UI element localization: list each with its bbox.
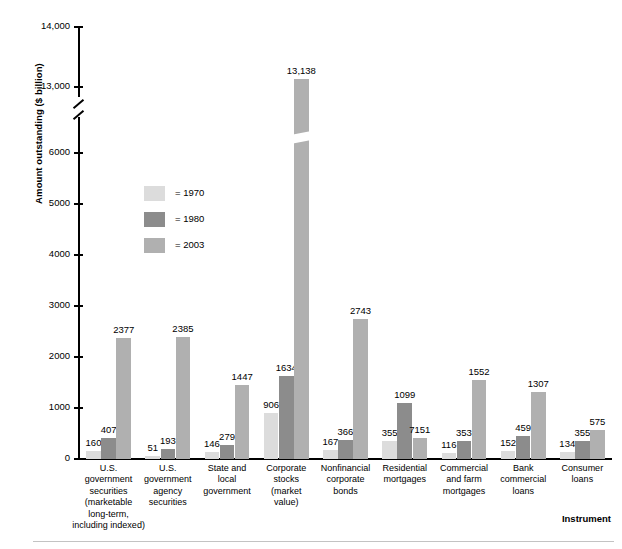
bar-1980-5 — [338, 440, 353, 459]
bar-value-label: 7151 — [404, 424, 437, 435]
bar-1980-8 — [516, 436, 531, 459]
bar-1970-5 — [323, 450, 338, 459]
bar-1970-7 — [442, 453, 457, 459]
bar-group: 511932385 — [138, 0, 197, 459]
category-label-line: value) — [243, 497, 330, 508]
bar-2003-2 — [176, 337, 191, 459]
legend-label-1980: = 1980 — [175, 213, 204, 224]
bar-value-label: 1307 — [522, 378, 555, 389]
y-tick-label: 5000 — [22, 197, 70, 208]
bar-1970-2 — [145, 456, 160, 459]
y-tick-label-wrap: 4000 — [20, 248, 70, 260]
bar-group: 1673662743 — [316, 0, 375, 459]
bar-1970-6 — [382, 441, 397, 459]
y-tick-label-wrap: 13,000 — [20, 80, 70, 92]
y-tick-label-wrap: 6000 — [20, 146, 70, 158]
bar-group: 1604072377 — [79, 0, 138, 459]
y-tick-label: 3000 — [22, 299, 70, 310]
bar-1970-3 — [205, 452, 220, 459]
category-label-line: including indexed) — [57, 520, 160, 531]
bar-value-label: 2743 — [344, 305, 377, 316]
bar-1970-1 — [86, 451, 101, 459]
y-tick-label-wrap: 1000 — [20, 401, 70, 413]
bar-1980-7 — [457, 441, 472, 459]
bar-2003-4 — [294, 79, 309, 459]
legend-label-2003: = 2003 — [175, 239, 204, 250]
footer-divider — [33, 541, 614, 542]
category-label-line: bonds — [302, 486, 389, 497]
bar-value-label: 13,138 — [285, 65, 318, 76]
y-tick-label: 13,000 — [22, 80, 70, 91]
y-tick-label: 6000 — [22, 146, 70, 157]
bar-group: 1163531552 — [434, 0, 493, 459]
bar-group: 134355575 — [553, 0, 612, 459]
y-tick-label: 2000 — [22, 350, 70, 361]
x-axis-title: Instrument — [562, 513, 611, 524]
x-axis-category-labels: U.S.governmentsecurities(marketablelong-… — [79, 463, 612, 543]
category-label-line: loans — [539, 474, 622, 485]
legend-swatch-1980 — [144, 212, 165, 227]
bar-value-label: 1447 — [226, 371, 259, 382]
bar-1970-9 — [560, 452, 575, 459]
bar-chart-figure: Amount outstanding ($ billion) 14,00013,… — [0, 0, 622, 549]
bar-2003-9 — [590, 430, 605, 459]
bar-value-label: 1099 — [388, 389, 421, 400]
category-label-line: loans — [480, 486, 567, 497]
y-tick-label-wrap: 5000 — [20, 197, 70, 209]
bar-1970-4 — [264, 413, 279, 459]
category-label-9: Consumerloans — [539, 463, 622, 486]
bar-value-label: 1552 — [463, 366, 496, 377]
bar-group: 1524591307 — [494, 0, 553, 459]
bar-group: 1462791447 — [197, 0, 256, 459]
bar-group: 906163413,138 — [257, 0, 316, 459]
bar-value-label: 575 — [581, 416, 614, 427]
bar-value-label: 2385 — [167, 323, 200, 334]
bar-1980-2 — [161, 449, 176, 459]
plot-area: 16040723775119323851462791447906163413,1… — [79, 0, 612, 459]
y-tick-label: 4000 — [22, 248, 70, 259]
legend-swatch-1970 — [144, 186, 165, 201]
legend-label-1970: = 1970 — [175, 187, 204, 198]
bar-1980-3 — [220, 445, 235, 459]
y-tick-label: 14,000 — [22, 20, 70, 31]
category-label-line: securities — [124, 497, 211, 508]
y-tick-label-wrap: 14,000 — [20, 20, 70, 32]
bar-value-label: 2377 — [107, 324, 140, 335]
y-tick-label-wrap: 3000 — [20, 299, 70, 311]
bar-1970-8 — [501, 451, 516, 459]
y-tick-label: 1000 — [22, 401, 70, 412]
category-label-line: Consumer — [539, 463, 622, 474]
legend-swatch-2003 — [144, 238, 165, 253]
y-tick-label: 0 — [22, 452, 70, 463]
bar-2003-7 — [472, 380, 487, 459]
bar-1980-9 — [575, 441, 590, 459]
y-tick-label-wrap: 2000 — [20, 350, 70, 362]
bar-2003-1 — [116, 338, 131, 459]
bar-1980-4 — [279, 376, 294, 459]
bar-2003-5 — [353, 319, 368, 459]
bar-group: 35510997151 — [375, 0, 434, 459]
bar-2003-8 — [531, 392, 546, 459]
bar-1980-1 — [101, 438, 116, 459]
bar-2003-3 — [235, 385, 250, 459]
category-label-line: long-term, — [57, 509, 160, 520]
bar-2003-6 — [413, 438, 428, 459]
